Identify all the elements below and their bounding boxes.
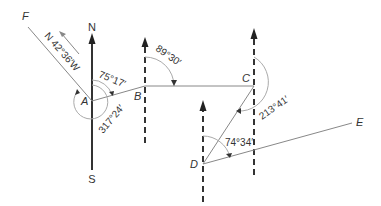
line-af: [28, 27, 92, 101]
point-d-label: D: [190, 158, 198, 170]
point-e-label: E: [356, 116, 364, 128]
bearing-ab-label: 75°17′: [97, 69, 127, 90]
bearing-reflex-label: 317°24′: [96, 102, 126, 135]
af-arrowhead-icon: [59, 31, 66, 37]
bearing-bc-label: 89°30′: [154, 43, 183, 68]
bearing-de-label: 74°34′: [225, 137, 253, 148]
arc-reflex-bearing: [74, 85, 108, 119]
meridian-c-arrow-icon: [251, 28, 258, 39]
point-a-label: A: [80, 95, 88, 107]
north-arrow-icon: [89, 33, 96, 44]
point-c-label: C: [242, 72, 250, 84]
arc-reflex-arrowhead-icon: [75, 89, 80, 95]
arc-bc-arrowhead-icon: [171, 80, 177, 86]
point-b-label: B: [134, 90, 141, 102]
meridian-b-arrow-icon: [142, 37, 149, 47]
bearing-cd-label: 213°41′: [257, 93, 291, 121]
north-label: N: [88, 21, 96, 33]
south-label: S: [88, 173, 95, 185]
point-f-label: F: [22, 10, 30, 22]
meridian-d-arrow-icon: [200, 100, 207, 111]
traverse-diagram: N S F N 42°36′W 75°17′ 317°24′ A B 89°30…: [0, 0, 381, 206]
